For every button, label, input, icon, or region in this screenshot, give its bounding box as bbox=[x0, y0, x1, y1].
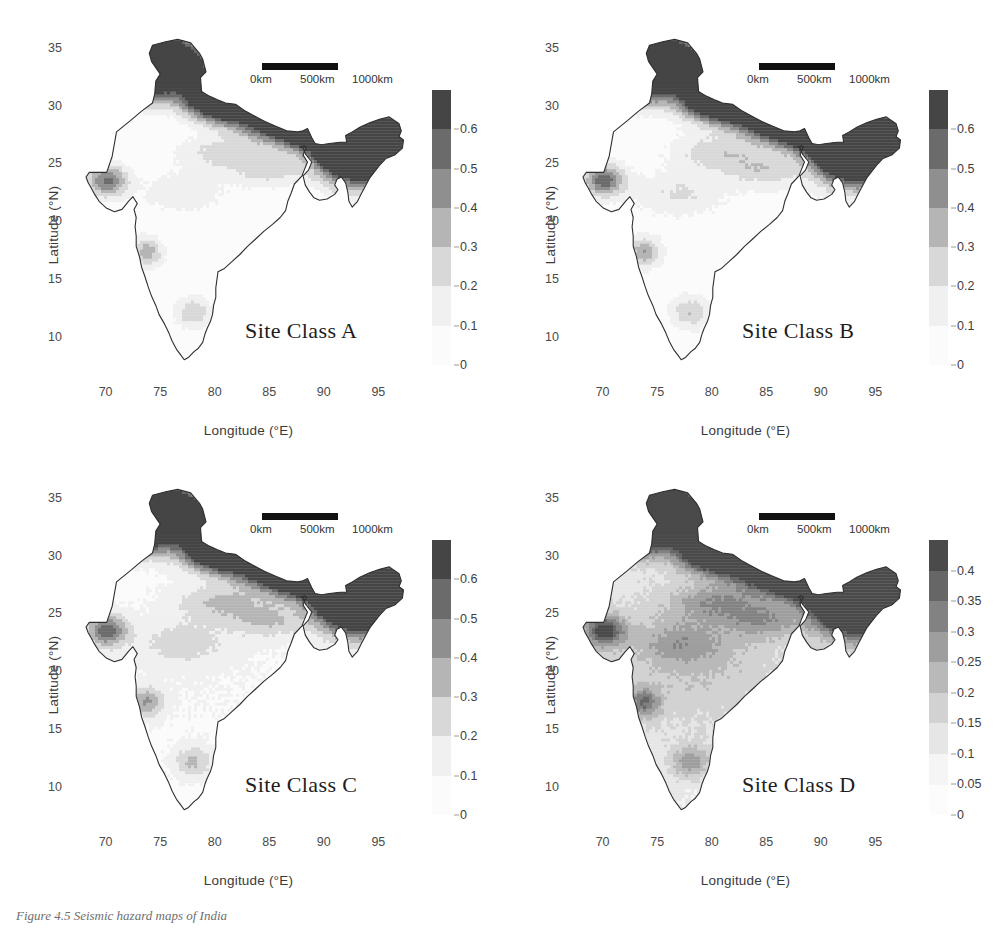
x-axis-ticks: 707580859095 bbox=[62, 385, 422, 403]
colorbar-tick-mark-0.4 bbox=[454, 657, 459, 658]
colorbar-tick-mark-0.6 bbox=[454, 579, 459, 580]
y-tick-15: 15 bbox=[36, 272, 62, 286]
scale-label-0: 0km bbox=[250, 73, 272, 85]
colorbar-tick-label-0.4: 0.4 bbox=[957, 201, 974, 215]
scale-bar: 0km 500km 1000km bbox=[248, 58, 408, 94]
x-tick-90: 90 bbox=[307, 385, 341, 399]
x-tick-95: 95 bbox=[361, 385, 395, 399]
y-axis-ticks: 101520253035 bbox=[36, 468, 62, 798]
colorbar-tick-label-0.3: 0.3 bbox=[460, 240, 477, 254]
y-tick-30: 30 bbox=[533, 549, 559, 563]
y-tick-35: 35 bbox=[533, 491, 559, 505]
colorbar-d: 0.40.350.30.250.20.150.10.050 bbox=[929, 540, 989, 815]
y-tick-10: 10 bbox=[533, 330, 559, 344]
colorbar-tick-mark-0.1 bbox=[454, 325, 459, 326]
colorbar-cell-2 bbox=[929, 601, 948, 632]
scale-label-500: 500km bbox=[300, 73, 335, 85]
x-tick-95: 95 bbox=[858, 385, 892, 399]
colorbar-ticks: 0.60.50.40.30.20.10 bbox=[454, 90, 492, 365]
y-axis-ticks: 101520253035 bbox=[533, 18, 559, 348]
y-tick-25: 25 bbox=[36, 606, 62, 620]
colorbar-tick-mark-0 bbox=[454, 815, 459, 816]
colorbar-cell-6 bbox=[432, 326, 451, 365]
x-tick-85: 85 bbox=[252, 835, 286, 849]
colorbar-cell-5 bbox=[929, 286, 948, 325]
y-tick-20: 20 bbox=[533, 664, 559, 678]
panel-title-d: Site Class D bbox=[742, 772, 856, 798]
panel-site-class-d: Latitude (°N) 101520253035 0km 500km 100… bbox=[497, 450, 994, 900]
x-tick-90: 90 bbox=[804, 835, 838, 849]
colorbar-tick-mark-0.3 bbox=[454, 697, 459, 698]
colorbar-cell-3 bbox=[432, 658, 451, 697]
colorbar-cell-1 bbox=[929, 129, 948, 168]
colorbar-tick-mark-0 bbox=[454, 365, 459, 366]
colorbar-cell-3 bbox=[929, 208, 948, 247]
scale-label-500: 500km bbox=[300, 523, 335, 535]
colorbar-tick-label-0.3: 0.3 bbox=[957, 625, 974, 639]
x-tick-70: 70 bbox=[586, 835, 620, 849]
colorbar-cell-2 bbox=[432, 619, 451, 658]
colorbar-tick-mark-0.2 bbox=[454, 736, 459, 737]
scale-label-1000: 1000km bbox=[352, 73, 393, 85]
colorbar-tick-mark-0.5 bbox=[454, 168, 459, 169]
colorbar-tick-label-0.2: 0.2 bbox=[460, 729, 477, 743]
x-tick-80: 80 bbox=[695, 385, 729, 399]
colorbar-strip bbox=[432, 90, 451, 365]
x-tick-85: 85 bbox=[252, 385, 286, 399]
colorbar-cell-2 bbox=[929, 169, 948, 208]
y-tick-30: 30 bbox=[36, 549, 62, 563]
colorbar-cell-6 bbox=[929, 326, 948, 365]
colorbar-tick-label-0.6: 0.6 bbox=[460, 572, 477, 586]
colorbar-tick-label-0.05: 0.05 bbox=[957, 777, 981, 791]
colorbar-tick-label-0.1: 0.1 bbox=[957, 747, 974, 761]
x-axis-ticks: 707580859095 bbox=[559, 385, 919, 403]
colorbar-tick-label-0.3: 0.3 bbox=[460, 690, 477, 704]
colorbar-cell-0 bbox=[432, 90, 451, 129]
panel-site-class-c: Latitude (°N) 101520253035 0km 500km 100… bbox=[0, 450, 497, 900]
colorbar-tick-label-0.6: 0.6 bbox=[957, 122, 974, 136]
colorbar-cell-3 bbox=[929, 632, 948, 663]
colorbar-tick-label-0.35: 0.35 bbox=[957, 594, 981, 608]
colorbar-cell-7 bbox=[929, 754, 948, 785]
colorbar-cell-1 bbox=[929, 571, 948, 602]
x-tick-75: 75 bbox=[143, 835, 177, 849]
x-axis-ticks: 707580859095 bbox=[62, 835, 422, 853]
colorbar-cell-4 bbox=[432, 247, 451, 286]
colorbar-cell-0 bbox=[929, 90, 948, 129]
y-tick-25: 25 bbox=[36, 156, 62, 170]
scale-bar: 0km 500km 1000km bbox=[745, 58, 905, 94]
scale-label-500: 500km bbox=[797, 523, 832, 535]
x-tick-95: 95 bbox=[858, 835, 892, 849]
colorbar-tick-mark-0.5 bbox=[951, 168, 956, 169]
x-tick-70: 70 bbox=[89, 835, 123, 849]
colorbar-cell-4 bbox=[432, 697, 451, 736]
y-tick-15: 15 bbox=[533, 722, 559, 736]
colorbar-tick-mark-0.1 bbox=[454, 775, 459, 776]
y-tick-20: 20 bbox=[533, 214, 559, 228]
x-tick-75: 75 bbox=[640, 385, 674, 399]
y-tick-35: 35 bbox=[533, 41, 559, 55]
y-tick-35: 35 bbox=[36, 41, 62, 55]
colorbar-tick-label-0.4: 0.4 bbox=[460, 201, 477, 215]
colorbar-cell-4 bbox=[929, 662, 948, 693]
colorbar-cell-5 bbox=[432, 736, 451, 775]
colorbar-tick-label-0.2: 0.2 bbox=[460, 279, 477, 293]
colorbar-tick-label-0: 0 bbox=[460, 808, 467, 822]
colorbar-strip bbox=[929, 90, 948, 365]
y-tick-25: 25 bbox=[533, 606, 559, 620]
x-tick-90: 90 bbox=[307, 835, 341, 849]
scale-bar: 0km 500km 1000km bbox=[745, 508, 905, 544]
y-axis-ticks: 101520253035 bbox=[36, 18, 62, 348]
colorbar-cell-6 bbox=[432, 776, 451, 815]
x-axis-label: Longitude (°E) bbox=[497, 423, 994, 438]
colorbar-tick-mark-0.6 bbox=[454, 129, 459, 130]
panel-site-class-a: Latitude (°N) 101520253035 0km 500km 100… bbox=[0, 0, 497, 450]
x-axis-label: Longitude (°E) bbox=[0, 423, 497, 438]
scale-label-0: 0km bbox=[747, 523, 769, 535]
colorbar-tick-mark-0.1 bbox=[951, 325, 956, 326]
colorbar-cell-3 bbox=[432, 208, 451, 247]
colorbar-tick-mark-0.35 bbox=[951, 601, 956, 602]
y-tick-10: 10 bbox=[36, 780, 62, 794]
colorbar-strip bbox=[432, 540, 451, 815]
colorbar-cell-5 bbox=[432, 286, 451, 325]
